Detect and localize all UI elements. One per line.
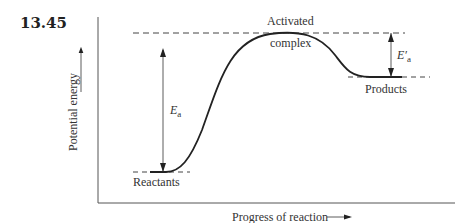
ea-prime-symbol: E′ [397,48,407,62]
activated-label-line1: Activated [267,14,314,29]
ea-prime-subscript: a [407,54,411,64]
products-label: Products [365,82,407,97]
ea-subscript: a [177,109,181,119]
reactants-label: Reactants [133,175,180,190]
y-axis-label: Potential energy [66,73,81,151]
ea-arrow-up-icon [160,48,166,57]
activated-label-line2: complex [270,36,311,51]
ea-prime-arrow-down-icon [388,68,394,77]
x-axis-arrow-icon [344,215,352,220]
ea-arrow-down-icon [160,163,166,172]
x-axis-label: Progress of reaction [232,210,328,223]
ea-label: Ea [170,103,181,119]
energy-curve [150,33,402,172]
ea-prime-label: E′a [397,48,411,64]
ea-prime-arrow-up-icon [388,33,394,42]
